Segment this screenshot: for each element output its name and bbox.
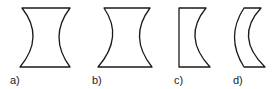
label-d: d) [233, 75, 243, 86]
label-a: a) [10, 75, 20, 86]
lens-c-plano-concave [179, 8, 210, 67]
lens-d-meniscus [235, 8, 266, 67]
label-b: b) [92, 75, 102, 86]
lens-a-biconcave [20, 8, 70, 67]
label-c: c) [174, 75, 183, 86]
lens-b-biconcave [98, 8, 152, 67]
